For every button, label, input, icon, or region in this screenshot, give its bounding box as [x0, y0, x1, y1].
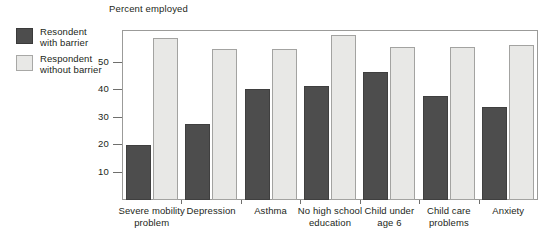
x-axis-tick-mark	[300, 200, 301, 204]
bar-without-barrier	[153, 38, 178, 200]
bar-group	[479, 30, 538, 200]
bar-with-barrier	[185, 124, 210, 200]
y-axis-tick-mark	[113, 89, 122, 90]
y-axis-tick-label: 50	[98, 56, 109, 67]
bar-with-barrier	[126, 145, 151, 200]
bar-group	[300, 30, 359, 200]
x-axis-tick-mark	[241, 200, 242, 204]
bar-group	[419, 30, 478, 200]
bar-group	[360, 30, 419, 200]
x-axis-label-line: problems	[412, 217, 486, 229]
bar-with-barrier	[482, 107, 507, 201]
x-axis-tick-mark	[479, 200, 480, 204]
x-axis-label-line: Anxiety	[471, 205, 545, 217]
bar-without-barrier	[509, 45, 534, 200]
y-axis-tick-label: 20	[98, 138, 109, 149]
bar-without-barrier	[450, 47, 475, 200]
bar-without-barrier	[272, 49, 297, 200]
y-axis: 1020304050	[0, 30, 122, 200]
bar-with-barrier	[363, 72, 388, 200]
y-axis-tick-label: 10	[98, 166, 109, 177]
y-axis-tick-mark	[113, 117, 122, 118]
x-axis-label: Anxiety	[471, 205, 545, 217]
x-axis-tick-mark	[419, 200, 420, 204]
bar-with-barrier	[423, 96, 448, 201]
x-axis-label-line: problem	[115, 217, 189, 229]
x-axis-tick-mark	[360, 200, 361, 204]
bar-group	[241, 30, 300, 200]
y-axis-tick-mark	[113, 172, 122, 173]
bar-without-barrier	[212, 49, 237, 200]
chart-title: Percent employed	[109, 3, 188, 14]
bar-group	[122, 30, 181, 200]
x-axis-labels: Severe mobilityproblemDepressionAsthmaNo…	[110, 205, 554, 231]
bar-without-barrier	[331, 35, 356, 200]
bar-without-barrier	[390, 47, 415, 200]
chart-figure: Percent employed Resondent with barrier …	[0, 0, 554, 231]
y-axis-tick-mark	[113, 144, 122, 145]
x-axis-tick-mark	[181, 200, 182, 204]
y-axis-tick-label: 40	[98, 83, 109, 94]
bar-group	[181, 30, 240, 200]
bar-with-barrier	[304, 86, 329, 200]
bar-with-barrier	[245, 89, 270, 200]
y-axis-tick-label: 30	[98, 111, 109, 122]
bars-layer	[122, 30, 538, 200]
y-axis-tick-mark	[113, 62, 122, 63]
